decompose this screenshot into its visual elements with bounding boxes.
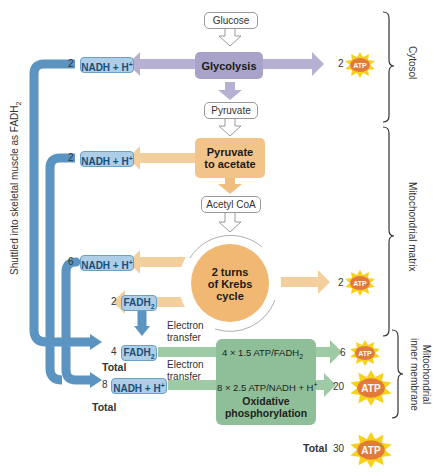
atp-total-count: 30	[333, 443, 344, 454]
krebs-label-2: of Krebs	[208, 278, 253, 290]
glucose-box: Glucose	[204, 12, 258, 29]
atp-badge-krebs: ATP	[345, 270, 375, 296]
region-membrane-line-2: inner membrane	[408, 338, 420, 411]
atp-count: 2	[338, 58, 344, 69]
atp-badge-total: ATP	[350, 432, 392, 468]
region-inner-membrane: Mitochondrial inner membrane	[408, 338, 432, 411]
pyruvate-to-acetate-box: Pyruvate to acetate	[195, 138, 265, 178]
krebs-cycle-label: 2 turns of Krebs cycle	[195, 262, 265, 306]
glycolysis-label: Glycolysis	[201, 60, 256, 72]
pyruvate-to-acetate-label-2: to acetate	[204, 158, 255, 170]
nadh-glycolysis: NADH + H+	[80, 57, 134, 73]
region-membrane-line-1: Mitochondrial	[420, 338, 432, 411]
pyruvate-box: Pyruvate	[204, 102, 258, 119]
oxidative-phosphorylation-box: 4 × 1.5 ATP/FADH2 8 × 2.5 ATP/NADH + H+ …	[216, 339, 316, 425]
fadh2-yield-rate: 4 × 1.5 ATP/FADH2	[222, 347, 303, 360]
nadh-pyruvate: NADH + H+	[80, 151, 134, 167]
grand-total-label: Total	[303, 442, 327, 454]
atp-count: 6	[340, 347, 346, 358]
pyruvate-to-acetate-label-1: Pyruvate	[207, 146, 253, 158]
cytosol-brace	[383, 12, 394, 122]
matrix-brace	[383, 127, 394, 336]
atp-badge-fadh2: ATP	[350, 340, 380, 366]
line-pyruvate-to-total	[50, 342, 62, 380]
nadh-total: NADH + H+	[111, 378, 167, 394]
region-mitochondrial-matrix: Mitochondrial matrix	[407, 182, 418, 271]
carrier-count: 8	[102, 379, 108, 390]
carrier-count: 2	[111, 296, 117, 307]
line-krebs-nadh	[66, 262, 92, 380]
atp-count: 2	[338, 277, 344, 288]
acetyl-coa-box: Acetyl CoA	[201, 196, 261, 213]
atp-count: 20	[333, 381, 344, 392]
carrier-count: 6	[68, 256, 74, 267]
oxphos-label-2: phosphorylation	[216, 407, 316, 419]
krebs-label-1: 2 turns	[212, 266, 249, 278]
atp-badge-nadh: ATP	[350, 370, 392, 406]
electron-transfer-label-1: Electrontransfer	[167, 320, 204, 344]
glycolysis-box: Glycolysis	[195, 52, 263, 79]
oxphos-label: Oxidative phosphorylation	[216, 395, 316, 419]
krebs-label-3: cycle	[216, 290, 244, 302]
carrier-count: 4	[111, 346, 117, 357]
total-nadh-label: Total	[92, 401, 116, 413]
fadh2-krebs: FADH2	[121, 295, 157, 311]
shuttle-label: Shuttled into skeletal muscle as FADH2	[9, 102, 22, 275]
atp-badge-glycolysis: ATP	[345, 52, 375, 78]
electron-transfer-label-2: Electrontransfer	[167, 359, 204, 383]
total-fadh2-label: Total	[102, 361, 126, 373]
oxphos-label-1: Oxidative	[216, 395, 316, 407]
carrier-count: 2	[68, 152, 74, 163]
region-cytosol: Cytosol	[407, 46, 418, 79]
nadh-yield-rate: 8 × 2.5 ATP/NADH + H+	[217, 381, 318, 393]
nadh-krebs: NADH + H+	[80, 255, 134, 271]
carrier-count: 2	[68, 58, 74, 69]
fadh2-total: FADH2	[121, 345, 157, 361]
membrane-brace	[392, 330, 403, 418]
